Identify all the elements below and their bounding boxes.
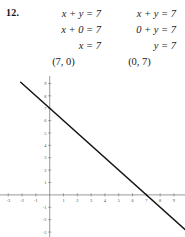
y-tick-label: 7	[44, 106, 47, 111]
equation-row: x = 7 y = 7	[32, 37, 182, 53]
y-tick-label: 5	[44, 131, 47, 136]
equation-cell-right: y = 7	[107, 40, 182, 51]
equation-cell-right: x + y = 7	[107, 8, 182, 19]
equation-cell-right: 0 + y = 7	[107, 24, 182, 35]
y-tick-label: -2	[43, 217, 47, 222]
coordinate-graph: -3-2-1123456789-3-2-1123456789	[0, 76, 185, 237]
y-tick-label: -1	[43, 205, 47, 210]
problem-header: 12. x + y = 7 x + y = 7 x + 0 = 7 0 + y …	[0, 0, 185, 76]
ordered-pair-right: (0, 7)	[107, 56, 182, 67]
y-tick-label: -3	[43, 230, 47, 235]
y-tick-label: 6	[44, 118, 47, 123]
x-tick-label: 1	[62, 198, 64, 203]
solution-pair-row: (7, 0) (0, 7)	[32, 53, 182, 69]
graph-svg: -3-2-1123456789-3-2-1123456789	[0, 76, 185, 237]
equation-cell-left: x + 0 = 7	[32, 24, 107, 35]
equation-cell-left: x = 7	[32, 40, 107, 51]
y-tick-label: 9	[44, 81, 47, 86]
y-tick-label: 1	[44, 180, 46, 185]
x-tick-label: 3	[90, 198, 93, 203]
x-tick-label: 5	[118, 198, 121, 203]
x-tick-label: 4	[104, 198, 107, 203]
y-tick-label: 3	[44, 155, 47, 160]
ticks-group	[8, 83, 174, 232]
x-tick-label: -1	[34, 198, 38, 203]
x-tick-label: 8	[159, 198, 162, 203]
y-tick-label: 4	[44, 143, 47, 148]
y-tick-label: 2	[44, 168, 46, 173]
problem-number: 12.	[6, 7, 19, 18]
x-tick-label: 6	[131, 198, 134, 203]
x-tick-label: -2	[20, 198, 24, 203]
equation-row: x + 0 = 7 0 + y = 7	[32, 21, 182, 37]
axes-group	[0, 76, 185, 237]
x-tick-label: 7	[145, 198, 148, 203]
ordered-pair-left: (7, 0)	[32, 56, 107, 67]
solution-columns: x + y = 7 x + y = 7 x + 0 = 7 0 + y = 7 …	[32, 5, 182, 69]
x-tick-label: -3	[6, 198, 10, 203]
x-tick-label: 9	[173, 198, 176, 203]
y-tick-label: 8	[44, 94, 47, 99]
equation-cell-left: x + y = 7	[32, 8, 107, 19]
x-tick-label: 2	[76, 198, 78, 203]
equation-row: x + y = 7 x + y = 7	[32, 5, 182, 21]
tick-labels-group: -3-2-1123456789-3-2-1123456789	[6, 81, 175, 235]
